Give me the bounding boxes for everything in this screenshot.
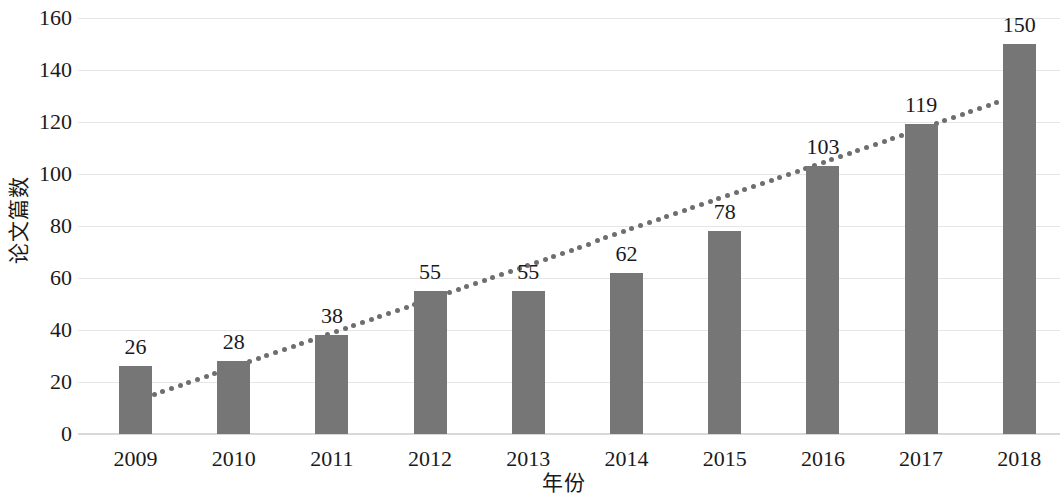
plot-area: 26283855556278103119150 — [78, 0, 1064, 440]
y-axis-tick-label: 0 — [61, 423, 72, 445]
x-axis-title-label: 年份 — [542, 471, 586, 494]
y-axis-tick-label: 140 — [39, 59, 72, 81]
bar-value-label: 78 — [695, 201, 755, 223]
y-axis-tick-label: 80 — [50, 215, 72, 237]
bar-value-label: 150 — [989, 14, 1049, 36]
y-axis-tick-label: 40 — [50, 319, 72, 341]
bar-value-label: 55 — [400, 261, 460, 283]
bar-value-label: 119 — [891, 94, 951, 116]
bar-value-label: 26 — [106, 336, 166, 358]
y-axis-tick-label: 60 — [50, 267, 72, 289]
bar-value-labels: 26283855556278103119150 — [78, 0, 1064, 440]
y-axis-title-label: 论文篇数 — [2, 176, 32, 264]
y-axis-tick-labels: 020406080100120140160 — [34, 0, 78, 440]
bar-value-label: 62 — [597, 243, 657, 265]
y-axis-tick-label: 100 — [39, 163, 72, 185]
bar-value-label: 55 — [498, 261, 558, 283]
bar-value-label: 103 — [793, 136, 853, 158]
y-axis-tick-label: 120 — [39, 111, 72, 133]
y-axis-title: 论文篇数 — [0, 0, 34, 440]
y-axis-tick-label: 20 — [50, 371, 72, 393]
y-axis-tick-label: 160 — [39, 7, 72, 29]
bar-value-label: 38 — [302, 305, 362, 327]
bar-chart: 论文篇数 020406080100120140160 2628385555627… — [0, 0, 1064, 494]
x-axis-title: 年份 — [0, 466, 1064, 494]
bar-value-label: 28 — [204, 331, 264, 353]
